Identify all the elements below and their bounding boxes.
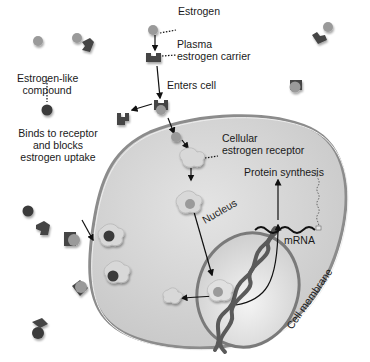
binds-label-line2: and blocks: [10, 139, 106, 151]
estrogen-like-molecule: [108, 271, 119, 282]
plasma-carrier-label-line2: estrogen carrier: [177, 50, 251, 62]
estrogen-molecule: [213, 287, 223, 297]
estrogen-molecule: [323, 22, 333, 32]
estrogen-like-label: Estrogen-like compound: [17, 72, 77, 96]
cellular-receptor-label-line1: Cellular: [222, 132, 258, 144]
carrier-molecule: [82, 38, 94, 52]
estrogen-molecule: [75, 281, 87, 293]
estrogen-molecule: [156, 105, 166, 115]
enters-cell-label: Enters cell: [167, 79, 216, 91]
protein-synthesis-label: Protein synthesis: [244, 166, 324, 178]
estrogen-molecule: [290, 82, 301, 93]
estrogen-molecule: [148, 25, 158, 35]
binds-label-line1: Binds to receptor: [10, 127, 106, 139]
mrna-label: mRNA: [284, 234, 315, 246]
carrier-molecule: [146, 53, 161, 62]
estrogen-pathway-diagram: Nucleus Cell membrane Estrogen Plasma es…: [0, 0, 370, 362]
estrogen-like-molecule: [32, 327, 44, 339]
estrogen-like-label-line1: Estrogen-like: [17, 72, 77, 84]
estrogen-molecule: [68, 234, 80, 246]
carrier-molecule: [32, 318, 48, 328]
plasma-carrier-label-line1: Plasma: [177, 38, 212, 50]
estrogen-like-molecule: [42, 105, 53, 116]
carrier-molecule: [117, 113, 129, 125]
estrogen-like-molecule: [104, 231, 115, 242]
carrier-molecule: [36, 221, 50, 235]
estrogen-molecule: [185, 199, 195, 209]
cellular-receptor-label-line2: estrogen receptor: [222, 144, 304, 156]
estrogen-label: Estrogen: [178, 5, 220, 17]
estrogen-like-label-line2: compound: [17, 84, 77, 96]
binds-receptor-label: Binds to receptor and blocks estrogen up…: [10, 127, 106, 163]
estrogen-like-molecule: [23, 206, 34, 217]
estrogen-molecule: [171, 132, 181, 142]
carrier-molecule: [312, 32, 327, 44]
estrogen-molecule: [72, 33, 82, 43]
binds-label-line3: estrogen uptake: [10, 151, 106, 163]
estrogen-molecule: [33, 36, 43, 46]
